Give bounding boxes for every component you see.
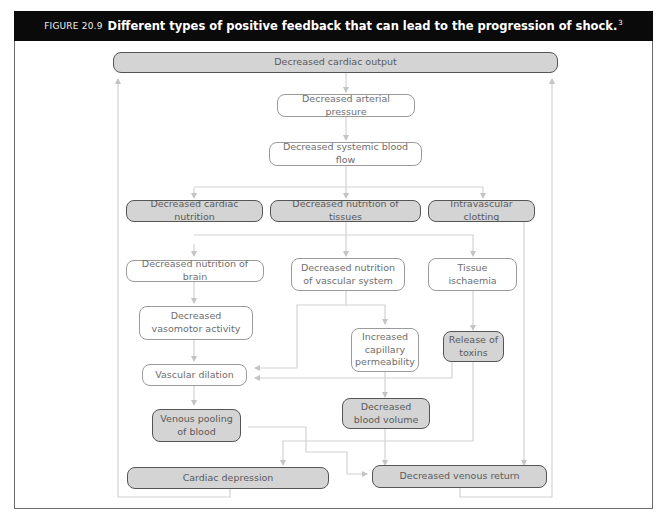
node-label: Tissue ischaemia <box>433 262 512 288</box>
node-label: Decreased nutrition of vascular system <box>296 262 400 288</box>
node-decreased-blood-volume: Decreased blood volume <box>342 398 430 429</box>
node-label: Increased capillary permeability <box>355 331 415 369</box>
node-label: Decreased cardiac output <box>274 56 396 69</box>
node-label: Release of toxins <box>448 334 499 360</box>
node-cardiac-depression: Cardiac depression <box>127 467 329 489</box>
node-label: Vascular dilation <box>155 369 234 382</box>
node-label: Decreased cardiac nutrition <box>131 198 258 224</box>
node-decreased-cardiac-output: Decreased cardiac output <box>113 52 558 73</box>
node-label: Decreased vasomotor activity <box>144 310 248 336</box>
node-decreased-nutrition-of-brain: Decreased nutrition of brain <box>126 260 264 282</box>
node-label: Decreased blood volume <box>347 401 425 427</box>
node-intravascular-clotting: Intravascular clotting <box>428 200 535 222</box>
node-tissue-ischaemia: Tissue ischaemia <box>428 258 517 291</box>
node-decreased-nutrition-of-tissues: Decreased nutrition of tissues <box>270 200 421 222</box>
node-decreased-nutrition-of-vascular-system: Decreased nutrition of vascular system <box>291 258 405 291</box>
node-venous-pooling-of-blood: Venous pooling of blood <box>152 409 241 442</box>
node-label: Decreased systemic blood flow <box>274 141 417 167</box>
node-increased-capillary-permeability: Increased capillary permeability <box>351 328 419 372</box>
node-label: Cardiac depression <box>183 472 274 485</box>
node-vascular-dilation: Vascular dilation <box>142 364 247 386</box>
node-decreased-cardiac-nutrition: Decreased cardiac nutrition <box>126 200 263 222</box>
node-label: Decreased nutrition of tissues <box>275 198 416 224</box>
node-decreased-arterial-pressure: Decreased arterial pressure <box>277 94 415 117</box>
node-label: Intravascular clotting <box>433 198 530 224</box>
node-label: Decreased venous return <box>400 470 520 483</box>
node-label: Decreased arterial pressure <box>282 93 410 119</box>
node-decreased-venous-return: Decreased venous return <box>372 465 547 488</box>
node-release-of-toxins: Release of toxins <box>443 331 504 362</box>
node-label: Venous pooling of blood <box>157 413 236 439</box>
node-decreased-vasomotor-activity: Decreased vasomotor activity <box>139 306 253 340</box>
node-label: Decreased nutrition of brain <box>131 258 259 284</box>
node-decreased-systemic-blood-flow: Decreased systemic blood flow <box>269 142 422 166</box>
